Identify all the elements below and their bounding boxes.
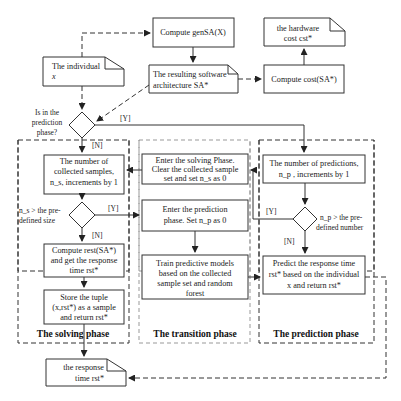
compute-cost-text: Compute cost(SA*) (271, 75, 337, 84)
enter-solving-text-1: Enter the solving Phase. (155, 156, 234, 165)
prediction-phase-label: The prediction phase (273, 329, 358, 339)
decision-prediction-text-1: Is in the (35, 108, 60, 117)
solving-phase-label: The solving phase (37, 329, 109, 339)
num-predictions-text-1: The number of predictions, (269, 159, 358, 168)
decision-size-text-1: n_s > the pre- (19, 206, 61, 215)
num-predictions-text-2: n_p , increments by 1 (279, 170, 350, 179)
compute-gensa-text: Compute genSA(X) (160, 28, 226, 37)
compute-rest-text-3: time rst* (70, 266, 99, 275)
enter-prediction-text-2: phase. Set n_p as 0 (164, 216, 227, 225)
individual-text-1: The individual (52, 62, 101, 71)
flowchart: Compute genSA(X) The individual x The re… (0, 0, 401, 401)
predict-rt-text-2: rst* based on the individual (269, 270, 360, 279)
hardware-cost-text-1: the hardware (277, 24, 320, 33)
num-samples-text-1: The number of (60, 157, 109, 166)
resulting-sa-text-2: architecture SA* (153, 81, 208, 90)
enter-solving-text-3: set and set n_s as 0 (164, 174, 227, 183)
transition-phase-label: The transition phase (153, 329, 236, 339)
edge-label-yes-2: [Y] (108, 204, 118, 213)
predict-rt-text-3: x and return rst* (287, 281, 341, 290)
num-samples-text-2: collected samples, (54, 167, 114, 176)
train-models-text-2: based on the collected (159, 269, 232, 278)
train-models-text-1: Train predictive models (156, 259, 234, 268)
edge-decision-yes (95, 125, 304, 152)
edge-individual-to-gensa (82, 33, 150, 57)
decision-size-text-2: defined size (19, 216, 56, 225)
edge-label-yes-3: [Y] (266, 207, 276, 216)
store-tuple-text-3: and return rst* (60, 313, 108, 322)
edge-label-yes-1: [Y] (120, 114, 130, 123)
decision-number-diamond (293, 207, 317, 231)
train-models-text-3: sample set and random (157, 279, 233, 288)
decision-prediction-text-3: phase? (37, 128, 58, 137)
store-tuple-text-2: (x,rst*) as a sample (52, 303, 116, 312)
edge-label-no-3: [N] (284, 237, 294, 246)
edge-label-no-1: [N] (92, 141, 102, 150)
edge-label-no-2: [N] (92, 231, 102, 240)
individual-text-2: x (51, 72, 56, 81)
store-tuple-text-1: Store the tuple (60, 293, 108, 302)
compute-rest-text-2: and get the response (51, 256, 118, 265)
resulting-sa-text-1: The resulting software (153, 70, 227, 79)
response-time-text-2: time rst* (75, 374, 104, 383)
decision-prediction-text-2: prediction (32, 118, 63, 127)
decision-size-diamond (69, 202, 95, 228)
decision-number-text-2: defined number (316, 223, 364, 232)
num-samples-text-3: n_s, increments by 1 (50, 178, 118, 187)
response-time-text-1: the response (63, 363, 104, 372)
predict-rt-text-1: Predict the response time (273, 259, 356, 268)
decision-number-text-1: n_p > the pre- (320, 213, 363, 222)
enter-prediction-text-1: Enter the prediction (162, 205, 227, 214)
compute-rest-text-1: Compute rest(SA*) (52, 246, 116, 255)
decision-prediction-diamond (69, 112, 95, 138)
enter-solving-text-2: Clear the collected sample (152, 165, 239, 174)
train-models-text-4: forest (186, 289, 205, 298)
hardware-cost-text-2: cost cst* (284, 34, 312, 43)
